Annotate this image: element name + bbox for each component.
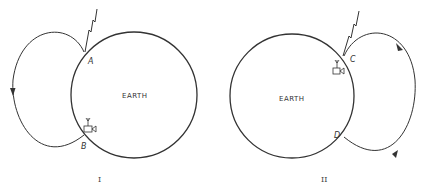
whistler-diagram: A B EARTH I C D EARTH II: [0, 0, 422, 191]
panel-label-I: I: [98, 175, 101, 184]
lightning-icon: [343, 11, 359, 56]
panel-II: C D EARTH II: [230, 11, 415, 184]
point-A-label: A: [87, 57, 93, 66]
panel-label-II: II: [321, 175, 327, 184]
arrow-head-icon: [396, 43, 403, 51]
radio-receiver-icon: [333, 60, 344, 74]
point-B-label: B: [81, 142, 87, 151]
earth-label: EARTH: [279, 95, 305, 103]
point-D-label: D: [334, 131, 340, 140]
point-C-label: C: [350, 55, 356, 64]
panel-I: A B EARTH I: [10, 9, 197, 184]
field-line-loop: [344, 33, 415, 150]
arrow-head-icon: [392, 150, 398, 158]
arrow-head-icon: [10, 88, 16, 96]
radio-receiver-icon: [84, 118, 96, 132]
field-line-loop: [13, 32, 84, 147]
earth-label: EARTH: [122, 92, 148, 100]
